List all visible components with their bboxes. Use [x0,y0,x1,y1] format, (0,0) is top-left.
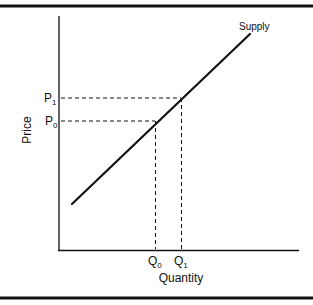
q1-label: Q1 [174,254,188,270]
supply-curve [72,34,250,204]
y-axis-label: Price [20,116,34,144]
p1-label: P1 [44,91,57,107]
x-axis-label: Quantity [159,271,204,285]
supply-label: Supply [239,21,270,32]
q0-label: Q0 [148,254,162,270]
supply-diagram: Supply P1 P0 Q0 Q1 Quantity Price [0,0,313,305]
p0-label: P0 [45,114,58,130]
